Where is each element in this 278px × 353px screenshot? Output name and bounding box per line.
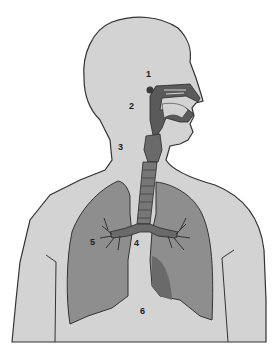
larynx (144, 134, 162, 162)
label-6-diaphragm: 6 (140, 307, 145, 316)
adenoid-dot (147, 87, 154, 94)
label-1-nasal-cavity: 1 (146, 70, 151, 79)
respiratory-system-diagram: 1 2 3 4 5 6 (0, 0, 278, 353)
diagram-svg (0, 0, 278, 353)
label-3-larynx: 3 (118, 143, 123, 152)
label-4-bronchi: 4 (134, 239, 139, 248)
label-5-lung: 5 (90, 238, 95, 247)
body-silhouette (12, 17, 266, 342)
label-2-pharynx: 2 (129, 102, 134, 111)
